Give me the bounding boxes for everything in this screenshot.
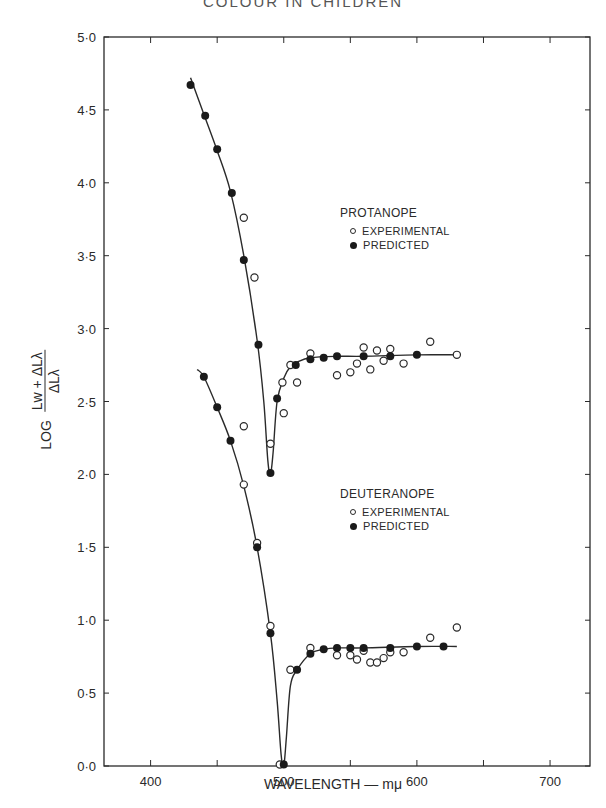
y-tick-label: 3·0 <box>77 322 96 337</box>
data-point-predicted <box>306 355 314 363</box>
data-point-predicted <box>333 352 341 360</box>
data-point-experimental <box>347 652 354 659</box>
data-point-predicted <box>293 666 301 674</box>
y-axis-label: LOG Lw + ΔLλ ΔLλ <box>10 330 80 470</box>
data-point-experimental <box>240 423 247 430</box>
data-point-experimental <box>280 410 287 417</box>
data-point-predicted <box>228 189 236 197</box>
data-point-experimental <box>333 372 340 379</box>
data-point-experimental <box>287 666 294 673</box>
data-point-experimental <box>347 369 354 376</box>
data-point-predicted <box>187 81 195 89</box>
data-point-experimental <box>380 357 387 364</box>
chart-plot: 0·00·51·01·52·02·53·03·54·04·55·04005006… <box>0 0 606 808</box>
data-point-experimental <box>333 652 340 659</box>
data-point-predicted <box>213 403 221 411</box>
filled-circle-icon <box>350 523 357 530</box>
data-point-predicted <box>213 145 221 153</box>
data-point-experimental <box>373 347 380 354</box>
data-point-experimental <box>367 366 374 373</box>
y-axis-label-prefix: LOG <box>37 420 53 450</box>
legend-title: DEUTERANOPE <box>340 487 450 501</box>
data-point-predicted <box>292 361 300 369</box>
legend-deuteranope: DEUTERANOPE EXPERIMENTAL PREDICTED <box>340 487 450 533</box>
y-tick-label: 4·0 <box>77 176 96 191</box>
data-point-predicted <box>273 395 281 403</box>
data-point-experimental <box>293 379 300 386</box>
legend-label: EXPERIMENTAL <box>362 506 450 518</box>
data-point-predicted <box>253 543 261 551</box>
data-point-predicted <box>440 642 448 650</box>
data-point-predicted <box>306 650 314 658</box>
data-point-experimental <box>373 659 380 666</box>
data-point-predicted <box>226 437 234 445</box>
data-point-predicted <box>346 644 354 652</box>
data-point-experimental <box>400 649 407 656</box>
fitted-curve-protanope <box>191 78 457 475</box>
y-tick-label: 3·5 <box>77 249 96 264</box>
data-point-experimental <box>251 274 258 281</box>
data-point-predicted <box>201 112 209 120</box>
open-circle-icon <box>350 509 356 515</box>
data-point-predicted <box>266 629 274 637</box>
y-axis-label-denominator: ΔLλ <box>46 367 62 395</box>
y-tick-label: 5·0 <box>77 30 96 45</box>
data-point-experimental <box>267 622 274 629</box>
y-tick-label: 4·5 <box>77 103 96 118</box>
data-point-experimental <box>240 481 247 488</box>
data-point-experimental <box>240 214 247 221</box>
data-point-experimental <box>453 624 460 631</box>
data-point-experimental <box>267 440 274 447</box>
legend-label: PREDICTED <box>363 239 429 251</box>
data-point-predicted <box>360 644 368 652</box>
y-tick-label: 1·5 <box>77 540 96 555</box>
legend-label: EXPERIMENTAL <box>362 225 450 237</box>
legend-item-predicted: PREDICTED <box>350 238 450 252</box>
data-point-predicted <box>386 352 394 360</box>
filled-circle-icon <box>350 242 357 249</box>
data-point-predicted <box>386 644 394 652</box>
data-point-predicted <box>320 354 328 362</box>
legend-title: PROTANOPE <box>340 206 450 220</box>
data-point-predicted <box>280 761 288 769</box>
open-circle-icon <box>350 228 356 234</box>
y-tick-label: 2·0 <box>77 467 96 482</box>
y-tick-label: 0·5 <box>77 686 96 701</box>
data-point-predicted <box>360 352 368 360</box>
data-point-experimental <box>453 351 460 358</box>
data-point-predicted <box>413 351 421 359</box>
data-point-predicted <box>320 645 328 653</box>
data-point-experimental <box>353 656 360 663</box>
data-point-predicted <box>200 373 208 381</box>
legend-label: PREDICTED <box>363 520 429 532</box>
y-tick-label: 2·5 <box>77 395 96 410</box>
legend-item-experimental: EXPERIMENTAL <box>350 224 450 238</box>
y-tick-label: 1·0 <box>77 613 96 628</box>
legend-protanope: PROTANOPE EXPERIMENTAL PREDICTED <box>340 206 450 252</box>
fitted-curve-deuteranope <box>197 369 457 767</box>
data-point-experimental <box>380 655 387 662</box>
data-point-experimental <box>387 345 394 352</box>
data-point-experimental <box>400 360 407 367</box>
x-axis-label: WAVELENGTH — mμ <box>0 776 606 792</box>
data-point-experimental <box>279 379 286 386</box>
data-point-predicted <box>254 341 262 349</box>
y-axis-label-fraction: Lw + ΔLλ ΔLλ <box>29 350 62 412</box>
data-point-experimental <box>427 338 434 345</box>
data-point-experimental <box>353 360 360 367</box>
data-point-experimental <box>360 344 367 351</box>
data-point-predicted <box>240 256 248 264</box>
data-point-predicted <box>413 642 421 650</box>
legend-item-experimental: EXPERIMENTAL <box>350 505 450 519</box>
y-tick-label: 0·0 <box>77 759 96 774</box>
data-point-predicted <box>333 644 341 652</box>
data-point-experimental <box>427 634 434 641</box>
legend-item-predicted: PREDICTED <box>350 519 450 533</box>
y-axis-label-numerator: Lw + ΔLλ <box>29 350 46 412</box>
data-point-predicted <box>266 469 274 477</box>
